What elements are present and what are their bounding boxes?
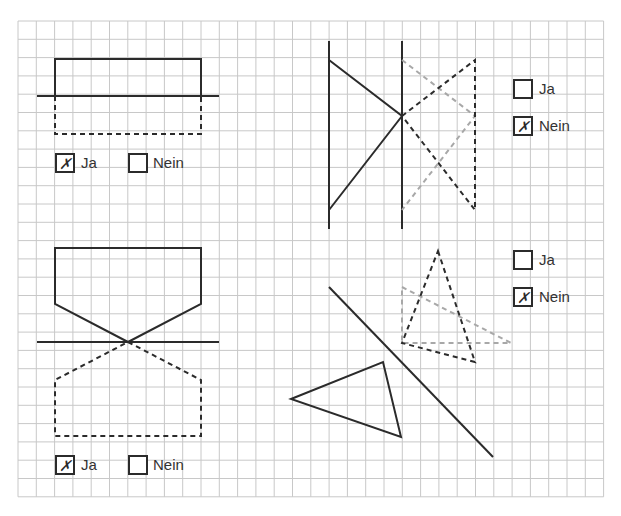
label-ja: Ja — [81, 153, 97, 173]
figure-triangle-diagonal-axis — [291, 251, 511, 457]
label-ja: Ja — [81, 455, 97, 475]
figure-triangle-vertical-axis — [329, 41, 475, 229]
checkbox-ja-panel-3[interactable]: ✗ — [55, 455, 75, 475]
checkbox-nein-panel-2[interactable]: ✗ — [513, 116, 533, 136]
label-ja: Ja — [539, 79, 555, 99]
checkbox-nein-panel-4[interactable]: ✗ — [513, 287, 533, 307]
check-mark-icon: ✗ — [517, 119, 530, 134]
check-mark-icon: ✗ — [517, 290, 530, 305]
label-nein: Nein — [153, 153, 184, 173]
check-mark-icon: ✗ — [59, 156, 72, 171]
checkbox-nein-panel-3[interactable] — [128, 455, 148, 475]
checkbox-ja-panel-4[interactable] — [513, 250, 533, 270]
label-nein: Nein — [539, 116, 570, 136]
label-nein: Nein — [539, 287, 570, 307]
checkbox-ja-panel-1[interactable]: ✗ — [55, 153, 75, 173]
label-ja: Ja — [539, 250, 555, 270]
mirror-axis — [329, 287, 493, 457]
label-nein: Nein — [153, 455, 184, 475]
checkbox-ja-panel-2[interactable] — [513, 79, 533, 99]
check-mark-icon: ✗ — [59, 458, 72, 473]
checkbox-nein-panel-1[interactable] — [128, 153, 148, 173]
